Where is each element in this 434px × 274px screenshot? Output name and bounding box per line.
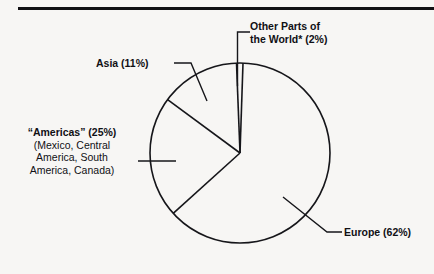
slice-label-europe: Europe (62%) <box>344 226 411 239</box>
slice-label-other-line2: the World* (2%) <box>250 33 327 46</box>
pie-chart-figure: Other Parts of the World* (2%) Asia (11%… <box>0 0 434 274</box>
slice-label-europe-text: Europe (62%) <box>344 226 411 239</box>
slice-label-americas-detail3: America, Canada) <box>6 164 138 177</box>
slice-label-asia: Asia (11%) <box>96 57 149 70</box>
leader-line-other <box>238 32 251 86</box>
slice-label-other-line1: Other Parts of <box>250 20 327 33</box>
slice-divider-other-europe <box>240 63 243 153</box>
slice-divider-europe-americas <box>173 153 240 213</box>
slice-label-americas-title: “Americas” (25%) <box>6 126 138 139</box>
slice-divider-americas-asia <box>168 100 240 153</box>
slice-label-other-parts: Other Parts of the World* (2%) <box>250 20 327 45</box>
leader-line-asia <box>174 63 207 101</box>
slice-label-americas-detail2: America, South <box>6 151 138 164</box>
slice-label-americas-detail1: (Mexico, Central <box>6 139 138 152</box>
slice-label-americas: “Americas” (25%) (Mexico, Central Americ… <box>6 126 138 176</box>
slice-label-asia-text: Asia (11%) <box>96 57 149 70</box>
